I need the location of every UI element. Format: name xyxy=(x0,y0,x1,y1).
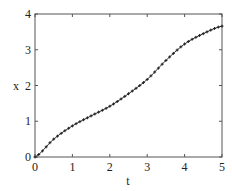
line-chart: 01234501234 t x xyxy=(0,0,232,191)
plot-frame xyxy=(35,14,222,157)
y-tick-label: 4 xyxy=(25,7,31,21)
y-tick-label: 3 xyxy=(25,43,31,57)
x-tick-label: 4 xyxy=(182,160,188,174)
plus-marker xyxy=(213,27,216,30)
x-tick-label: 1 xyxy=(69,160,75,174)
data-markers xyxy=(34,25,224,159)
y-axis-label: x xyxy=(13,79,19,93)
y-tick-label: 0 xyxy=(25,150,31,164)
y-tick-label: 1 xyxy=(25,114,31,128)
plus-marker xyxy=(209,29,212,32)
y-tick-label: 2 xyxy=(25,79,31,93)
x-tick-label: 3 xyxy=(144,160,150,174)
x-tick-label: 0 xyxy=(32,160,38,174)
plus-marker xyxy=(217,26,220,29)
data-line xyxy=(35,26,222,157)
x-axis-label: t xyxy=(126,174,130,188)
axis-ticks xyxy=(35,14,222,157)
plus-marker xyxy=(221,25,224,28)
x-tick-label: 5 xyxy=(219,160,225,174)
x-tick-label: 2 xyxy=(107,160,113,174)
tick-labels: 01234501234 xyxy=(25,7,225,174)
